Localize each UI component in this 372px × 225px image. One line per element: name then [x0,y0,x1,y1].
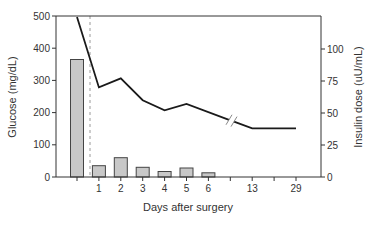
glucose-bars [71,60,215,178]
x-tick-label: 5 [184,183,190,194]
insulin-line-segment-late [234,122,296,129]
glucose-bar [202,173,215,177]
glucose-insulin-chart: 0100200300400500 0255075100 1234561329 D… [0,0,372,225]
x-tick-label: 6 [206,183,212,194]
x-axis-title: Days after surgery [143,201,233,213]
x-tick-label: 1 [96,183,102,194]
left-tick-label: 100 [33,139,50,150]
right-axis-ticks: 0255075100 [321,44,344,183]
left-axis-ticks: 0100200300400500 [33,11,56,183]
x-tick-label: 4 [162,183,168,194]
left-tick-label: 300 [33,75,50,86]
left-tick-label: 400 [33,43,50,54]
right-tick-label: 100 [327,44,344,55]
right-axis-title: Insulin dose (uU/mL) [352,46,364,148]
glucose-bar [114,158,127,177]
x-tick-label: 3 [140,183,146,194]
glucose-bar [180,168,193,177]
right-tick-label: 75 [327,76,339,87]
insulin-line [77,17,296,128]
glucose-bar [136,167,149,177]
right-tick-label: 25 [327,140,339,151]
right-tick-label: 50 [327,108,339,119]
x-tick-label: 13 [247,183,259,194]
left-axis-title: Glucose (mg/dL) [6,56,18,137]
right-tick-label: 0 [327,172,333,183]
glucose-bar [158,172,171,178]
axes [56,16,321,177]
left-tick-label: 500 [33,11,50,22]
left-tick-label: 200 [33,107,50,118]
left-tick-label: 0 [44,172,50,183]
glucose-bar [71,60,84,178]
insulin-line-segment-early [77,17,229,120]
x-tick-label: 29 [290,183,302,194]
x-axis-ticks: 1234561329 [77,177,302,194]
x-tick-label: 2 [118,183,124,194]
glucose-bar [92,166,105,177]
